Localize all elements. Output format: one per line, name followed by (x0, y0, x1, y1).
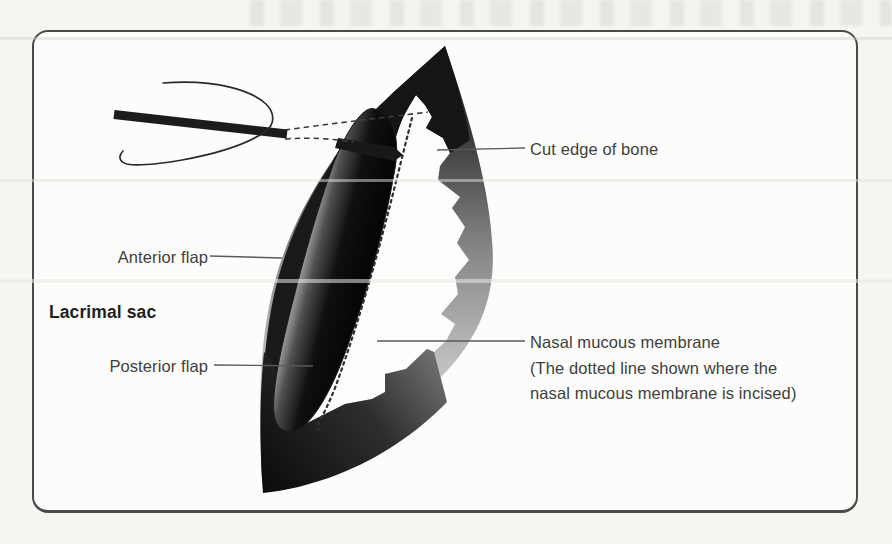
surgery-diagram (0, 0, 892, 544)
posterior-flap-label: Posterior flap (60, 356, 208, 376)
cut-edge-of-bone-label: Cut edge of bone (530, 139, 658, 159)
anterior-flap-label: Anterior flap (60, 247, 208, 267)
nasal-mucous-membrane-label: Nasal mucous membrane (The dotted line s… (530, 330, 860, 407)
scalpel-handle-icon (114, 115, 287, 135)
lacrimal-sac-label: Lacrimal sac (49, 302, 156, 322)
nasal-label-line-1: Nasal mucous membrane (530, 330, 860, 356)
anterior-flap-leader (210, 256, 282, 258)
posterior-flap-leader (214, 365, 313, 366)
nasal-label-line-2: (The dotted line shown where the (530, 356, 860, 382)
figure-canvas: Anterior flap Lacrimal sac Posterior fla… (0, 0, 892, 544)
nasal-label-line-3: nasal mucous membrane is incised) (530, 381, 860, 407)
